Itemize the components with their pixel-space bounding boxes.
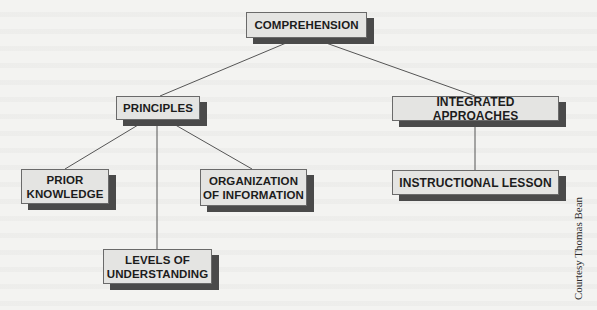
node-instructional-lesson-label: INSTRUCTIONAL LESSON (399, 176, 551, 190)
node-instructional-lesson: INSTRUCTIONAL LESSON (392, 170, 559, 195)
node-prior-knowledge: PRIOR KNOWLEDGE (21, 169, 109, 204)
node-integrated-approaches-label: INTEGRATED APPROACHES (393, 95, 558, 123)
edge-principles-organization (165, 119, 252, 169)
node-comprehension: COMPREHENSION (246, 12, 367, 38)
node-organization-line1: ORGANIZATION (209, 174, 298, 188)
edge-principles-prior (65, 119, 148, 169)
node-levels-of-understanding: LEVELS OF UNDERSTANDING (103, 249, 212, 284)
node-principles-label: PRINCIPLES (123, 101, 193, 115)
node-organization-of-information: ORGANIZATION OF INFORMATION (200, 169, 307, 206)
edge-comprehension-integrated (312, 38, 475, 96)
node-prior-knowledge-line1: PRIOR (47, 173, 84, 187)
image-credit: Courtesy Thomas Bean (572, 197, 584, 300)
node-levels-line1: LEVELS OF (125, 253, 190, 267)
edge-comprehension-principles (160, 38, 298, 96)
node-principles: PRINCIPLES (116, 96, 200, 120)
node-integrated-approaches: INTEGRATED APPROACHES (392, 96, 559, 121)
node-organization-line2: OF INFORMATION (203, 188, 304, 202)
node-comprehension-label: COMPREHENSION (254, 18, 358, 32)
connector-lines (0, 0, 597, 310)
node-levels-line2: UNDERSTANDING (107, 267, 208, 281)
node-prior-knowledge-line2: KNOWLEDGE (27, 187, 104, 201)
